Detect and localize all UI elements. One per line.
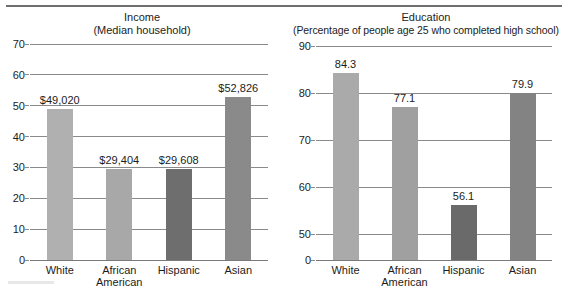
bar-asian bbox=[225, 97, 251, 260]
ytick-label-70: 70 bbox=[13, 38, 25, 50]
bar-asian bbox=[510, 93, 536, 260]
ytick-label-0: 0 bbox=[19, 254, 25, 266]
page-edge-artifact bbox=[8, 281, 54, 284]
xlabel-line: White bbox=[46, 264, 74, 276]
xaxis-label-asian: Asian bbox=[509, 264, 537, 276]
xaxis-label-african-american: AfricanAmerican bbox=[96, 264, 142, 288]
ytick-label-10: 10 bbox=[13, 223, 25, 235]
ytick-dash-0 bbox=[311, 260, 315, 261]
education-plot-area: 0506070809084.3White77.1AfricanAmerican5… bbox=[316, 46, 552, 260]
bar-value-label-white: 84.3 bbox=[335, 58, 356, 70]
education-title-line1: Education bbox=[284, 11, 568, 24]
ytick-dash-90 bbox=[311, 46, 315, 47]
bar-hispanic bbox=[166, 169, 192, 260]
ytick-label-30: 30 bbox=[13, 161, 25, 173]
xlabel-line: Hispanic bbox=[442, 264, 484, 276]
ytick-dash-10 bbox=[25, 229, 29, 230]
bar-value-label-african-american: 77.1 bbox=[394, 92, 415, 104]
education-title-line2: (Percentage of people age 25 who complet… bbox=[284, 24, 568, 37]
ytick-dash-30 bbox=[25, 167, 29, 168]
gridline-90 bbox=[316, 46, 552, 47]
chart-panel-income: Income (Median household) 01020304050607… bbox=[0, 0, 284, 284]
bar-value-label-hispanic: $29,608 bbox=[159, 154, 199, 166]
xaxis-label-hispanic: Hispanic bbox=[442, 264, 484, 276]
ytick-label-40: 40 bbox=[13, 131, 25, 143]
xlabel-line: African bbox=[381, 264, 427, 276]
xlabel-line: Asian bbox=[224, 264, 252, 276]
bar-white bbox=[47, 109, 73, 260]
ytick-dash-60 bbox=[25, 74, 29, 75]
xlabel-line: American bbox=[381, 276, 427, 288]
ytick-label-60: 60 bbox=[299, 181, 311, 193]
gridline-70 bbox=[30, 44, 268, 45]
xaxis-label-white: White bbox=[331, 264, 359, 276]
ytick-label-20: 20 bbox=[13, 192, 25, 204]
ytick-label-0: 0 bbox=[305, 254, 311, 266]
ytick-dash-20 bbox=[25, 198, 29, 199]
gridline-60 bbox=[30, 74, 268, 75]
bar-african-american bbox=[106, 169, 132, 260]
ytick-dash-50 bbox=[25, 105, 29, 106]
ytick-label-90: 90 bbox=[299, 40, 311, 52]
ytick-label-70: 70 bbox=[299, 134, 311, 146]
bar-value-label-asian: 79.9 bbox=[512, 78, 533, 90]
bar-hispanic bbox=[451, 205, 477, 260]
xlabel-line: White bbox=[331, 264, 359, 276]
ytick-dash-40 bbox=[25, 136, 29, 137]
ytick-dash-80 bbox=[311, 93, 315, 94]
ytick-label-50: 50 bbox=[13, 100, 25, 112]
ytick-dash-70 bbox=[25, 44, 29, 45]
income-plot-area: 010203040506070$49,020White$29,404Africa… bbox=[30, 44, 268, 260]
bar-white bbox=[333, 73, 359, 260]
chart-panel-education: Education (Percentage of people age 25 w… bbox=[284, 0, 568, 284]
ytick-dash-60 bbox=[311, 187, 315, 188]
ytick-dash-70 bbox=[311, 140, 315, 141]
xaxis-label-african-american: AfricanAmerican bbox=[381, 264, 427, 288]
xlabel-line: Asian bbox=[509, 264, 537, 276]
bar-value-label-asian: $52,826 bbox=[218, 82, 258, 94]
bar-african-american bbox=[392, 107, 418, 260]
ytick-dash-50 bbox=[311, 234, 315, 235]
bar-value-label-african-american: $29,404 bbox=[99, 154, 139, 166]
bar-value-label-white: $49,020 bbox=[40, 94, 80, 106]
ytick-label-50: 50 bbox=[299, 228, 311, 240]
income-title-line2: (Median household) bbox=[0, 24, 284, 37]
xlabel-line: Hispanic bbox=[158, 264, 200, 276]
bar-value-label-hispanic: 56.1 bbox=[453, 190, 474, 202]
xlabel-line: African bbox=[96, 264, 142, 276]
ytick-label-80: 80 bbox=[299, 87, 311, 99]
xaxis-label-hispanic: Hispanic bbox=[158, 264, 200, 276]
income-title-line1: Income bbox=[0, 11, 284, 24]
xaxis-label-asian: Asian bbox=[224, 264, 252, 276]
income-chart-title: Income (Median household) bbox=[0, 11, 284, 37]
ytick-label-60: 60 bbox=[13, 69, 25, 81]
education-chart-title: Education (Percentage of people age 25 w… bbox=[284, 11, 568, 37]
ytick-dash-0 bbox=[25, 260, 29, 261]
xlabel-line: American bbox=[96, 276, 142, 288]
xaxis-label-white: White bbox=[46, 264, 74, 276]
